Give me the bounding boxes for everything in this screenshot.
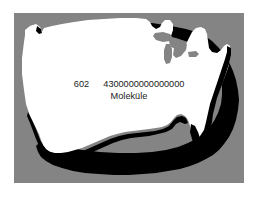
coefficient-value: 602 [74, 80, 90, 90]
caption-number-row: 6024300000000000000 [14, 80, 244, 90]
unit-label: Moleküle [14, 92, 244, 102]
molecule-count-value: 4300000000000000 [103, 80, 184, 90]
caption-block: 6024300000000000000 Moleküle [14, 80, 244, 102]
figure-container: 6024300000000000000 Moleküle [0, 0, 256, 197]
